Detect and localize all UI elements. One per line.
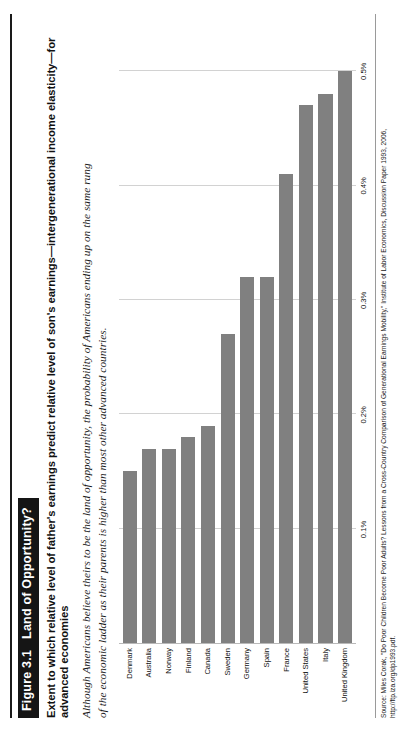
bar-row <box>120 14 140 643</box>
bar <box>240 277 254 643</box>
figure-tag: Figure 3.1 Land of Opportunity? <box>18 498 39 718</box>
figure-number: Figure 3.1 <box>20 650 34 711</box>
category-label: Australia <box>139 644 159 718</box>
axis-tick-label: 0.1% <box>359 521 368 538</box>
axis-tick-label: 0.3% <box>359 292 368 309</box>
source-text: Source: Miles Corak, "Do Poor Children B… <box>380 129 387 718</box>
category-label: Canada <box>198 644 218 718</box>
bar-row <box>139 14 159 643</box>
source-url: http://ftp.iza.org/dp1993.pdf. <box>388 18 397 718</box>
category-label: Sweden <box>218 644 238 718</box>
rotated-page-container: Figure 3.1 Land of Opportunity? Extent t… <box>0 0 405 734</box>
category-label: Finland <box>179 644 199 718</box>
bar <box>221 334 235 643</box>
figure-source: Source: Miles Corak, "Do Poor Children B… <box>379 18 397 718</box>
axis-tick-label: 0.2% <box>359 406 368 423</box>
bar-row <box>237 14 257 643</box>
bar-row <box>218 14 238 643</box>
bar <box>123 471 137 643</box>
bar-row <box>335 14 355 643</box>
bar-row <box>159 14 179 643</box>
bar <box>318 94 332 643</box>
top-divider <box>10 14 12 718</box>
figure-container: Figure 3.1 Land of Opportunity? Extent t… <box>0 0 405 734</box>
bar <box>142 449 156 643</box>
bar-row <box>316 14 336 643</box>
axis-tick-label: 0.4% <box>359 177 368 194</box>
plot-area <box>119 14 356 644</box>
bar-row <box>198 14 218 643</box>
bar-row <box>277 14 297 643</box>
bar <box>162 449 176 643</box>
source-divider <box>375 14 376 718</box>
category-label: United States <box>296 644 316 718</box>
value-axis: 0.1%0.2%0.3%0.4%0.5% <box>356 14 371 644</box>
category-axis: DenmarkAustraliaNorwayFinlandCanadaSwede… <box>119 644 356 718</box>
category-label: Denmark <box>120 644 140 718</box>
figure-title: Extent to which relative level of father… <box>45 14 71 718</box>
axis-tick-label: 0.5% <box>359 63 368 80</box>
bar-row <box>257 14 277 643</box>
bar <box>299 106 313 644</box>
bar <box>181 437 195 643</box>
bar <box>338 71 352 643</box>
category-label: Spain <box>257 644 277 718</box>
chart: DenmarkAustraliaNorwayFinlandCanadaSwede… <box>119 14 371 718</box>
bar <box>279 174 293 643</box>
category-label: Norway <box>159 644 179 718</box>
figure-tag-row: Figure 3.1 Land of Opportunity? <box>17 14 39 718</box>
bar <box>201 426 215 643</box>
category-label: Germany <box>237 644 257 718</box>
category-label: France <box>277 644 297 718</box>
figure-tag-title: Land of Opportunity? <box>20 507 34 639</box>
bar-row <box>296 14 316 643</box>
category-label: Italy <box>316 644 336 718</box>
plot-row: DenmarkAustraliaNorwayFinlandCanadaSwede… <box>119 14 356 718</box>
bar-row <box>179 14 199 643</box>
bar <box>260 277 274 643</box>
category-label: United Kingdom <box>335 644 355 718</box>
figure-subtitle: Although Americans believe theirs to be … <box>78 158 111 718</box>
